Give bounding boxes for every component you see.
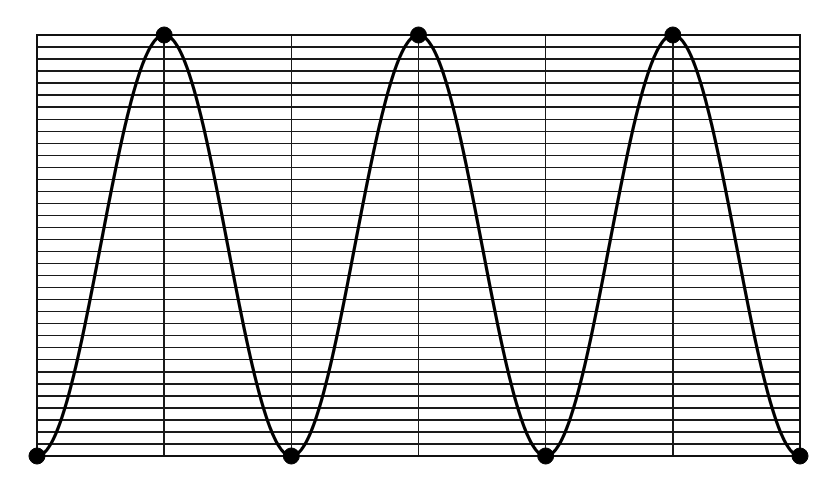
data-point-marker <box>538 448 554 464</box>
data-point-marker <box>283 448 299 464</box>
chart-container <box>0 0 830 481</box>
data-point-marker <box>29 448 45 464</box>
data-point-marker <box>156 27 172 43</box>
data-point-marker <box>411 27 427 43</box>
data-point-marker <box>665 27 681 43</box>
sinusoid-chart <box>0 0 830 481</box>
data-point-marker <box>792 448 808 464</box>
chart-background <box>0 0 830 481</box>
